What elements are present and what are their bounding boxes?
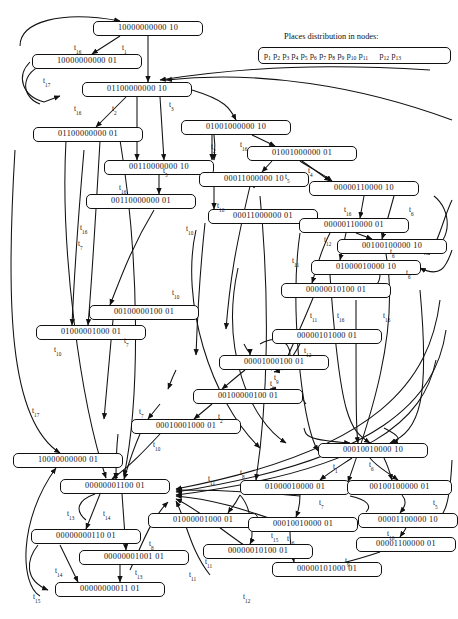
transition-label-t16: t16 <box>337 311 344 321</box>
state-node: 01001000000 10 <box>181 120 291 135</box>
transition-label-t5: t5 <box>163 166 168 176</box>
state-node: 01000001000 01 <box>148 513 258 528</box>
transition-label-t1: t1 <box>122 43 127 53</box>
legend-place-p4: p4 <box>292 51 299 60</box>
transition-label-t12: t12 <box>304 346 311 356</box>
transition-label-t13: t13 <box>67 509 74 519</box>
state-node: 00000001001 01 <box>79 550 189 565</box>
state-node: 01000010000 10 <box>311 260 421 275</box>
transition-label-t16: t16 <box>344 205 351 215</box>
transition-label-t7: t7 <box>319 498 324 508</box>
transition-label-t17: t17 <box>43 76 50 86</box>
legend-place-p12: p12 <box>379 51 389 60</box>
transition-label-t10: t10 <box>186 224 193 234</box>
transition-label-t10: t10 <box>54 345 61 355</box>
transition-label-t16: t16 <box>383 311 390 321</box>
state-node: 00000010100 01 <box>281 283 391 298</box>
transition-label-t10: t10 <box>153 440 160 450</box>
state-node: 10000000000 10 <box>93 21 203 36</box>
transition-label-t6: t6 <box>390 247 395 257</box>
state-node: 01001000000 01 <box>247 146 357 161</box>
transition-label-t11: t11 <box>189 570 196 580</box>
legend-title: Places distribution in nodes: <box>284 32 379 41</box>
transition-label-t16: t16 <box>74 104 81 114</box>
transition-label-t9: t9 <box>345 556 350 566</box>
state-node: 00000000110 01 <box>31 529 141 544</box>
transition-label-t8: t8 <box>240 468 245 478</box>
transition-label-t12: t12 <box>324 235 331 245</box>
transition-label-t3: t3 <box>169 100 174 110</box>
state-node: 10000000000 01 <box>13 453 123 468</box>
state-node: 00100100000 01 <box>347 480 452 495</box>
state-node: 00000101000 01 <box>272 562 382 577</box>
transition-label-t4: t4 <box>308 166 313 176</box>
transition-label-t6: t6 <box>369 460 374 470</box>
state-node: 01000010000 01 <box>240 480 350 495</box>
transition-label-t15: t15 <box>271 531 278 541</box>
state-node: 00000101000 01 <box>272 329 382 344</box>
transition-label-t16: t16 <box>119 183 126 193</box>
transition-label-t1: t1 <box>333 462 338 472</box>
state-node: 00001100000 10 <box>358 513 458 528</box>
state-node: 00110000000 01 <box>86 194 196 209</box>
state-node: 00010001000 01 <box>131 419 241 434</box>
state-node: 00001000100 01 <box>219 355 329 370</box>
legend-places-box: p1p2p3p4p5p6p7p8p9p10p11p12p13 <box>258 47 451 64</box>
state-node: 00010010000 01 <box>248 517 358 532</box>
transition-label-t7: t7 <box>139 407 144 417</box>
state-node: 01100000000 01 <box>33 127 143 142</box>
state-node: 00000010100 01 <box>203 544 313 559</box>
legend-place-p2: p2 <box>273 51 280 60</box>
state-node: 00000000011 01 <box>55 582 165 597</box>
transition-label-t16: t16 <box>240 140 247 150</box>
transition-label-t7: t7 <box>78 239 83 249</box>
transition-label-t15: t15 <box>33 592 40 602</box>
legend-place-p5: p5 <box>301 51 308 60</box>
transition-label-t11: t11 <box>205 557 212 567</box>
transition-label-t16: t16 <box>74 43 81 53</box>
transition-label-t16: t16 <box>217 201 224 211</box>
legend-place-p11: p11 <box>359 51 368 60</box>
legend-place-p13: p13 <box>391 51 401 60</box>
transition-label-t12: t12 <box>243 592 250 602</box>
transition-label-t2: t2 <box>112 104 117 114</box>
transition-label-t6: t6 <box>270 379 275 389</box>
state-node: 01100000000 10 <box>82 82 192 97</box>
legend-place-p10: p10 <box>347 51 357 60</box>
transition-label-t16: t16 <box>80 223 87 233</box>
legend-place-p1: p1 <box>264 51 271 60</box>
transition-label-t11: t11 <box>310 311 317 321</box>
legend-place-p3: p3 <box>282 51 289 60</box>
state-node: 00000110000 10 <box>309 181 419 196</box>
state-node: 10000000000 01 <box>32 54 142 69</box>
transition-label-t5: t5 <box>285 172 290 182</box>
transition-label-t6: t6 <box>406 268 411 278</box>
transition-label-t14: t14 <box>103 509 110 519</box>
legend-place-p9: p9 <box>338 51 345 60</box>
transition-label-t2: t2 <box>218 412 223 422</box>
transition-label-t14: t14 <box>55 566 62 576</box>
transition-label-t13: t13 <box>135 568 142 578</box>
state-node: 00010010000 10 <box>318 443 428 458</box>
transition-label-t11: t11 <box>292 256 299 266</box>
transition-label-t6: t6 <box>409 205 414 215</box>
legend-place-p6: p6 <box>310 51 317 60</box>
state-node: 01000001000 01 <box>36 325 146 340</box>
transition-label-t17: t17 <box>32 406 39 416</box>
transition-label-t9: t9 <box>274 373 279 383</box>
transition-label-t16: t16 <box>387 529 394 539</box>
transition-label-t2: t2 <box>211 142 216 152</box>
transition-label-t5: t5 <box>433 498 438 508</box>
state-node: 00100000100 01 <box>193 389 303 404</box>
transition-label-t7: t7 <box>124 336 129 346</box>
legend-place-p7: p7 <box>319 51 326 60</box>
transition-label-t16: t16 <box>287 534 294 544</box>
transition-label-t8: t8 <box>149 539 154 549</box>
legend-place-p8: p8 <box>328 51 335 60</box>
transition-label-t11: t11 <box>208 474 215 484</box>
state-node: 00110000000 10 <box>104 160 214 175</box>
state-node: 00011000000 10 <box>199 172 309 187</box>
state-node: 00001100000 01 <box>356 537 456 552</box>
state-node: 00000110000 01 <box>299 218 409 233</box>
